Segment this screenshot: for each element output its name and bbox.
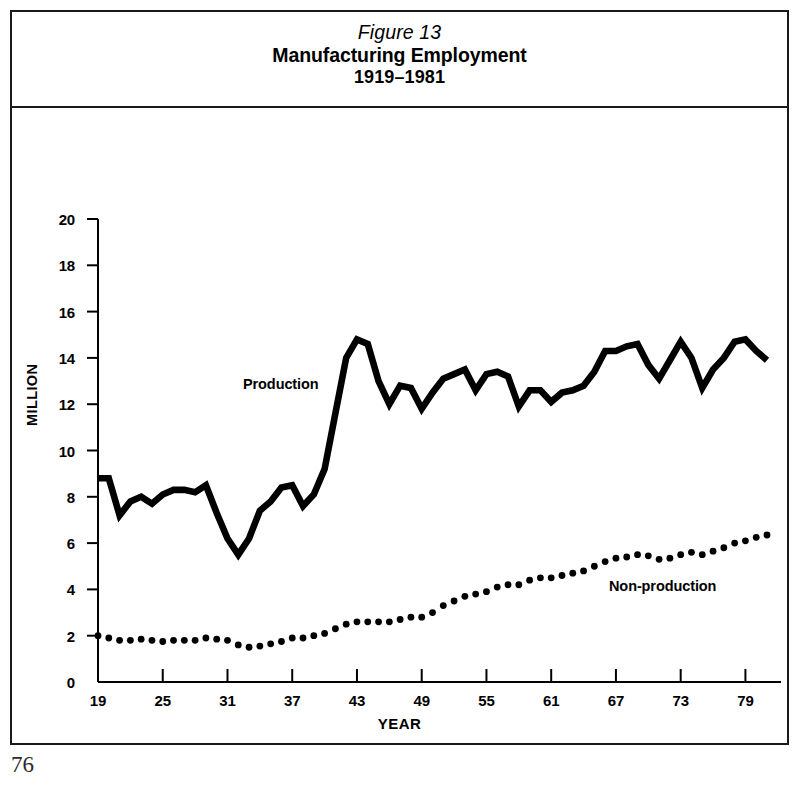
y-axis-tick-label: 12 [45, 397, 75, 412]
page-number: 76 [11, 752, 34, 778]
x-axis-tick-label: 49 [405, 693, 439, 708]
y-axis-tick-label: 2 [45, 629, 75, 644]
x-axis-tick-label: 31 [210, 693, 244, 708]
y-axis-tick-label: 4 [45, 582, 75, 597]
x-axis-tick-label: 37 [275, 693, 309, 708]
x-axis-tick-label: 19 [81, 693, 115, 708]
figure-main-title: Manufacturing Employment [12, 44, 787, 67]
y-axis-title: MILLION [24, 364, 40, 426]
y-axis-tick-label: 18 [45, 258, 75, 273]
x-axis-tick-label: 25 [146, 693, 180, 708]
manufacturing-employment-line-chart [12, 108, 791, 745]
series-label-non-production: Non-production [609, 578, 716, 594]
y-axis-tick-label: 16 [45, 305, 75, 320]
x-axis-tick-label: 61 [534, 693, 568, 708]
y-axis-tick-label: 14 [45, 351, 75, 366]
y-axis-tick-label: 8 [45, 490, 75, 505]
x-axis-title: YEAR [12, 715, 787, 732]
y-axis-tick-label: 20 [45, 212, 75, 227]
x-axis-tick-label: 67 [599, 693, 633, 708]
y-axis-tick-label: 0 [45, 675, 75, 690]
chart-plot-region: 02468101214161820 1925313743495561677379… [12, 108, 787, 745]
chart-series-layer [95, 339, 771, 650]
x-axis-tick-label: 43 [340, 693, 374, 708]
figure-title-block: Figure 13 Manufacturing Employment 1919–… [12, 12, 787, 108]
x-axis-tick-label: 73 [664, 693, 698, 708]
figure-year-range: 1919–1981 [12, 67, 787, 88]
x-axis-tick-label: 55 [469, 693, 503, 708]
series-label-production: Production [243, 376, 319, 392]
figure-frame: Figure 13 Manufacturing Employment 1919–… [10, 10, 789, 745]
figure-number-label: Figure 13 [12, 21, 787, 44]
series-production-line [98, 339, 767, 554]
x-axis-tick-label: 79 [728, 693, 762, 708]
y-axis-tick-label: 10 [45, 444, 75, 459]
y-axis-tick-label: 6 [45, 536, 75, 551]
